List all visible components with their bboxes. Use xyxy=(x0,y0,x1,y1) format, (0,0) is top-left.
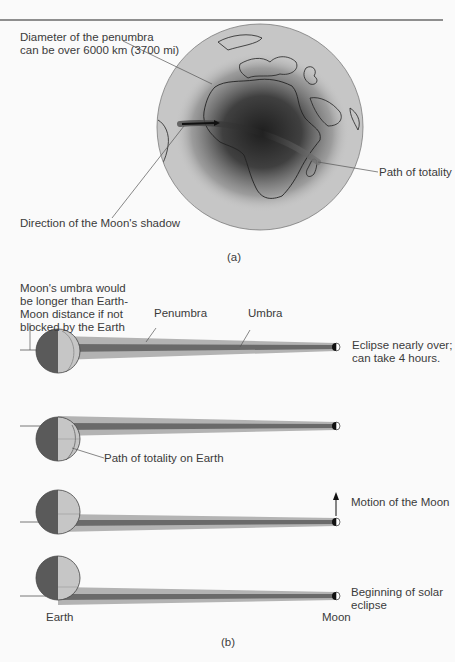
stage-4-line: Beginning of solar xyxy=(351,586,443,599)
caption-a: (a) xyxy=(227,251,241,264)
umbra-note-line: Moon distance if not xyxy=(20,308,128,321)
direction-label: Direction of the Moon's shadow xyxy=(20,217,180,230)
stage-1-line: can take 4 hours. xyxy=(352,352,452,365)
stage-1-label: Eclipse nearly over; can take 4 hours. xyxy=(352,339,452,365)
stage-4 xyxy=(20,556,340,605)
moon-label: Moon xyxy=(322,611,351,624)
umbra-note-line: blocked by the Earth xyxy=(20,321,128,334)
earth-label: Earth xyxy=(46,611,74,624)
penumbra-diameter-label: Diameter of the penumbra can be over 600… xyxy=(20,31,179,57)
umbra-note-line: Moon's umbra would xyxy=(20,282,128,295)
path-of-totality-label: Path of totality xyxy=(379,166,452,179)
penumbra-label-line2: can be over 6000 km (3700 mi) xyxy=(20,44,179,57)
motion-label: Motion of the Moon xyxy=(351,496,449,509)
stage-1-line: Eclipse nearly over; xyxy=(352,339,452,352)
umbra-note-line: be longer than Earth- xyxy=(20,295,128,308)
penumbra-label: Penumbra xyxy=(154,307,207,320)
umbra-label: Umbra xyxy=(248,307,283,320)
motion-arrow-icon xyxy=(333,492,339,500)
globe xyxy=(157,24,363,230)
umbra-note: Moon's umbra would be longer than Earth-… xyxy=(20,282,128,334)
stage-4-line: eclipse xyxy=(351,599,443,612)
penumbra-label-line1: Diameter of the penumbra xyxy=(20,31,179,44)
path-on-earth-label: Path of totality on Earth xyxy=(104,452,224,465)
caption-b: (b) xyxy=(221,636,235,649)
stage-4-label: Beginning of solar eclipse xyxy=(351,586,443,612)
stage-3 xyxy=(20,490,340,534)
